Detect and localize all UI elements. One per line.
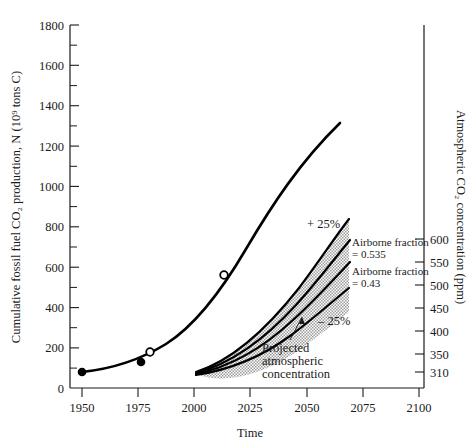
xtick-label: 2000 — [182, 401, 207, 415]
ytick-label: 400 — [45, 301, 64, 315]
co2-projection-chart: 1800 1600 1400 1200 1000 800 600 400 200… — [0, 0, 467, 444]
ytick-right-label: 600 — [430, 233, 449, 247]
annotation-label: = 0.535 — [352, 248, 386, 260]
xtick-label: 1950 — [70, 401, 95, 415]
annotation-minus-25: – 25% — [317, 314, 350, 328]
marker-open-2025 — [220, 271, 228, 279]
ytick-right-label: 450 — [430, 302, 449, 316]
annotation-label: concentration — [262, 367, 331, 381]
ytick-right-label: 500 — [430, 279, 449, 293]
x-axis-title: Time — [237, 426, 263, 440]
bottom-axis-ticks — [82, 388, 419, 397]
annotation-label: Airborne fraction — [352, 265, 429, 277]
ytick-label: 1400 — [39, 99, 64, 113]
ytick-right-label: 400 — [430, 325, 449, 339]
right-axis-tick-labels: 600 550 500 450 400 350 310 — [430, 233, 449, 380]
xtick-label: 1975 — [126, 401, 151, 415]
xtick-label: 2025 — [238, 401, 263, 415]
annotation-plus-25: + 25% — [307, 217, 340, 231]
ytick-right-label: 350 — [430, 348, 449, 362]
annotation-label: = 0.43 — [352, 277, 381, 289]
axis-lines — [70, 25, 424, 388]
annotation-label: Airborne fraction — [352, 236, 429, 248]
ytick-label: 0 — [58, 382, 64, 396]
marker-open-1979 — [146, 348, 154, 356]
ytick-label: 600 — [45, 261, 64, 275]
annotation-label: + 25% — [307, 217, 340, 231]
annotation-label: – 25% — [317, 314, 350, 328]
xtick-label: 2075 — [351, 401, 376, 415]
xtick-label: 2050 — [295, 401, 320, 415]
marker-filled-1977 — [137, 358, 144, 365]
ytick-label: 1800 — [39, 19, 64, 33]
marker-filled-1950 — [78, 368, 85, 375]
ytick-right-label: 550 — [430, 256, 449, 270]
annotation-airborne-535: Airborne fraction = 0.535 — [352, 236, 429, 260]
chart-canvas: 1800 1600 1400 1200 1000 800 600 400 200… — [0, 0, 467, 444]
ytick-label: 1600 — [39, 59, 64, 73]
left-axis-ticks — [70, 25, 79, 368]
ytick-label: 800 — [45, 220, 64, 234]
xtick-label: 2100 — [407, 401, 432, 415]
left-axis-tick-labels: 1800 1600 1400 1200 1000 800 600 400 200… — [39, 19, 64, 396]
ytick-label: 1000 — [39, 180, 64, 194]
right-axis-ticks — [415, 239, 424, 372]
y-axis-right-title: Atmospheric CO₂ concentration (ppm) — [454, 110, 467, 304]
annotation-label: Projected — [262, 341, 310, 355]
ytick-label: 1200 — [39, 140, 64, 154]
y-axis-title: Cumulative fossil fuel CO₂ production, N… — [9, 71, 23, 343]
ytick-right-label: 310 — [430, 366, 449, 380]
annotation-label: atmospheric — [262, 354, 324, 368]
data-markers — [78, 271, 227, 375]
bottom-axis-tick-labels: 1950 1975 2000 2025 2050 2075 2100 — [70, 401, 432, 415]
ytick-label: 200 — [45, 341, 64, 355]
